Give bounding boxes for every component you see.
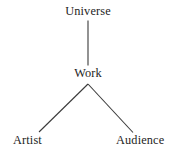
edge-work-to-audience — [88, 84, 133, 133]
node-label-universe: Universe — [65, 5, 111, 17]
node-label-artist: Artist — [13, 134, 42, 146]
diagram-canvas: Universe Work Artist Audience — [0, 0, 174, 152]
edge-work-to-artist — [39, 84, 88, 132]
node-label-audience: Audience — [116, 134, 164, 146]
node-label-work: Work — [74, 67, 102, 79]
